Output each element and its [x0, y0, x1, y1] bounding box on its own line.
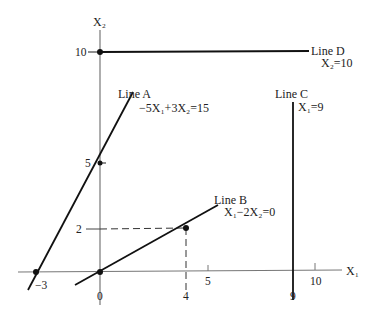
- line-a-equation: −5X₁+3X₂=15: [139, 101, 209, 115]
- y-tick-label-2: 2: [76, 223, 82, 235]
- line-c-name: Line C: [275, 87, 308, 101]
- y-tick-label-10: 10: [75, 46, 87, 58]
- linear-constraints-diagram: X₂ X₁ 10 5 2 −3 0 4 5 9 10 Line D X₂=10 …: [0, 0, 375, 317]
- y-tick-label-5: 5: [85, 157, 91, 169]
- point-4-2: [183, 225, 189, 231]
- line-c-equation: X₁=9: [298, 100, 324, 114]
- x-tick-label-9: 9: [290, 290, 296, 302]
- y-axis-label: X₂: [93, 15, 106, 29]
- line-b: [75, 205, 218, 285]
- x-tick-label-4: 4: [183, 290, 189, 302]
- point-origin: [97, 269, 103, 275]
- x-tick-label-10: 10: [310, 275, 322, 287]
- line-b-equation: X₁−2X₂=0: [224, 205, 275, 219]
- line-a-name: Line A: [118, 87, 151, 101]
- guide-y2: [100, 228, 186, 229]
- x-axis-label: X₁: [346, 264, 359, 278]
- x-tick-label-5: 5: [205, 275, 211, 287]
- x-tick-label-neg3: −3: [35, 279, 47, 291]
- point-0-5: [98, 161, 103, 166]
- point-0-10: [97, 49, 103, 55]
- line-d: [100, 51, 309, 52]
- x-tick-label-0: 0: [97, 290, 103, 302]
- line-d-equation: X₂=10: [321, 56, 353, 70]
- line-a: [28, 92, 133, 290]
- point-neg3-0: [33, 269, 39, 275]
